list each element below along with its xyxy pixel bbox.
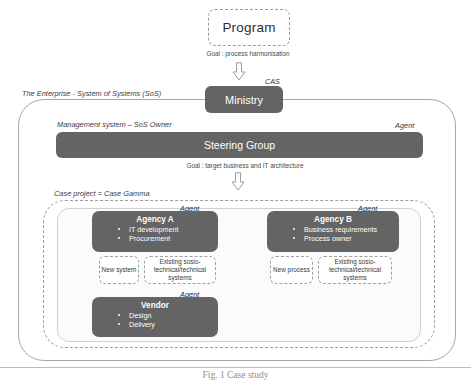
vendor-card: Vendor Design Delivery xyxy=(92,297,218,337)
program-goal-label: Goal : process harmonisation xyxy=(198,50,298,57)
case-project-title: Case project = Case Gamma xyxy=(52,189,152,198)
agency-b-title: Agency B xyxy=(267,215,399,224)
figure-caption: Fig. 1 Case study xyxy=(0,370,471,380)
steering-goal-label: Goal : target business and IT architectu… xyxy=(155,162,335,169)
agency-a-new-system-box: New system xyxy=(99,256,139,284)
cas-tag: CAS xyxy=(265,77,280,86)
enterprise-title: The Enterprise - System of Systems (SoS) xyxy=(20,89,163,98)
agency-a-item: Procurement xyxy=(118,234,218,243)
agency-a-card: Agency A IT development Procurement xyxy=(92,211,218,252)
agency-b-new-process-box: New process xyxy=(270,256,313,284)
agency-b-existing-systems-box: Existing sosio-technical/technical syste… xyxy=(318,256,392,284)
ministry-label: Ministry xyxy=(225,94,263,106)
caption-divider xyxy=(0,367,471,368)
diagram-canvas: Program Goal : process harmonisation The… xyxy=(0,0,471,380)
arrow-down-program-to-ministry xyxy=(232,62,246,81)
agency-b-item: Business requirements xyxy=(293,225,399,234)
steering-group-label: Steering Group xyxy=(204,139,275,151)
ministry-box: Ministry xyxy=(205,86,283,113)
steering-group-box: Steering Group xyxy=(56,132,423,158)
agency-b-card: Agency B Business requirements Process o… xyxy=(267,211,399,252)
agency-a-item: IT development xyxy=(118,225,218,234)
program-box: Program xyxy=(208,9,290,46)
agency-b-item: Process owner xyxy=(293,234,399,243)
agency-a-existing-systems-box: Existing sosio-technical/technical syste… xyxy=(144,256,216,284)
arrow-down-steering-to-case xyxy=(231,172,245,191)
agency-a-title: Agency A xyxy=(92,215,218,224)
vendor-item: Design xyxy=(118,311,218,320)
management-agent-tag: Agent xyxy=(395,121,414,130)
vendor-item: Delivery xyxy=(118,320,218,329)
vendor-title: Vendor xyxy=(92,301,218,310)
program-label: Program xyxy=(222,20,275,35)
management-system-title: Management system – SoS Owner xyxy=(57,120,172,129)
